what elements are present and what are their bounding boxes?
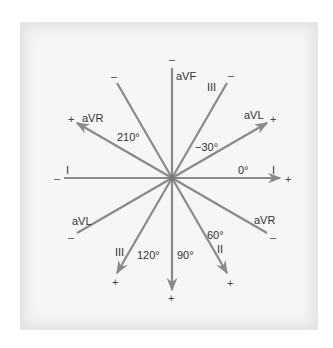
lead-III-pos-label: III [115,246,124,258]
angle-0-label: 0° [238,164,249,176]
lead-I-pos-sign: + [285,173,291,185]
lead-I-neg-label: I [66,164,69,176]
lead-aVL-pos-sign: + [270,113,276,125]
lead-I-pos-label: I [272,164,275,176]
lead-III-neg-label: III [207,81,216,93]
lead-II-pos-label: II [217,243,223,255]
lead-aVF-label: aVF [176,70,196,82]
hexaxial-diagram: I – I + 0° – aVF + 90° III – III + 120° … [0,0,333,348]
lead-II-neg-sign: – [111,70,118,82]
lead-aVR-pos-sign: + [68,113,74,125]
lead-III-neg-sign: – [228,69,235,81]
angle-90-label: 90° [177,249,194,261]
angle-210-label: 210° [117,131,140,143]
angle-minus30-label: −30° [195,141,218,153]
lead-aVL-pos-label: aVL [244,109,264,121]
lead-aVF-neg-sign: – [169,53,176,65]
angle-60-label: 60° [207,229,224,241]
lead-II-pos-sign: + [227,277,233,289]
lead-aVR-neg-label: aVR [254,214,275,226]
lead-aVF-pos-sign: + [168,292,174,304]
lead-I-neg-sign: – [54,172,61,184]
center-point [169,175,175,181]
lead-aVR-pos-label: aVR [82,112,103,124]
angle-120-label: 120° [137,249,160,261]
lead-aVL-neg-label: aVL [72,215,92,227]
lead-III-pos-sign: + [112,276,118,288]
lead-aVR-neg-sign: – [270,231,277,243]
lead-aVL-neg-sign: – [68,231,75,243]
